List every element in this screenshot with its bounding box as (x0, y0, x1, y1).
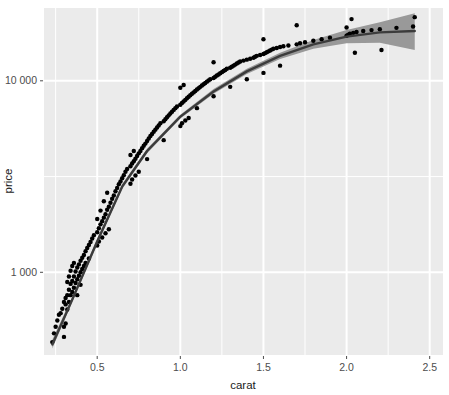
data-point (63, 321, 67, 325)
data-point (107, 205, 111, 209)
data-point (281, 44, 285, 48)
x-axis: 0.51.01.52.02.5 (90, 356, 437, 373)
x-axis-title: carat (230, 379, 256, 391)
data-point (68, 268, 72, 272)
data-point (261, 37, 265, 41)
data-point (55, 318, 59, 322)
data-point (60, 307, 64, 311)
y-tick-label: 1 000 (11, 266, 37, 278)
x-tick-label: 0.5 (90, 361, 105, 373)
y-tick-label: 10 000 (5, 74, 37, 86)
data-point (303, 40, 307, 44)
data-point (298, 41, 302, 45)
data-point (394, 26, 398, 30)
data-point (107, 227, 111, 231)
data-point (311, 38, 315, 42)
data-point (369, 28, 373, 32)
data-point (145, 157, 149, 161)
data-point (245, 77, 249, 81)
data-point (211, 94, 215, 98)
data-point (161, 138, 165, 142)
data-point (82, 253, 86, 257)
data-point (58, 311, 62, 315)
data-point (73, 269, 77, 273)
data-point (361, 29, 365, 33)
data-point (112, 193, 116, 197)
data-point (103, 212, 107, 216)
data-point (344, 25, 348, 29)
data-point (411, 24, 415, 28)
panel-group (44, 0, 443, 355)
chart-canvas: 0.51.01.52.02.5 1 00010 000 carat price (0, 0, 449, 395)
data-point (103, 231, 107, 235)
data-point (95, 217, 99, 221)
data-point (349, 17, 353, 21)
data-point (353, 51, 357, 55)
ggplot-scatter-chart: 0.51.01.52.02.5 1 00010 000 carat price (0, 0, 449, 395)
data-point (133, 173, 137, 177)
data-point (53, 324, 57, 328)
data-point (105, 191, 109, 195)
x-tick-label: 2.5 (422, 361, 437, 373)
data-point (354, 30, 358, 34)
data-point (286, 43, 290, 47)
data-point (261, 71, 265, 75)
data-point (186, 116, 190, 120)
data-point (62, 335, 66, 339)
data-point (132, 149, 136, 153)
data-point (97, 226, 101, 230)
x-tick-label: 2.0 (339, 361, 354, 373)
y-axis-title: price (2, 169, 14, 194)
data-point (67, 274, 71, 278)
data-point (92, 233, 96, 237)
x-tick-label: 1.0 (173, 361, 188, 373)
data-point (228, 85, 232, 89)
data-point (102, 199, 106, 203)
data-point (379, 48, 383, 52)
data-point (130, 177, 134, 181)
data-point (128, 182, 132, 186)
data-point (108, 200, 112, 204)
data-point (294, 23, 298, 27)
data-point (319, 37, 323, 41)
data-point (413, 15, 417, 19)
data-point (72, 261, 76, 265)
data-point (98, 208, 102, 212)
data-point (128, 153, 132, 157)
data-point (95, 230, 99, 234)
x-tick-label: 1.5 (256, 361, 271, 373)
data-point (181, 83, 185, 87)
data-point (211, 60, 215, 64)
data-point (378, 27, 382, 31)
data-point (278, 63, 282, 67)
data-point (137, 170, 141, 174)
